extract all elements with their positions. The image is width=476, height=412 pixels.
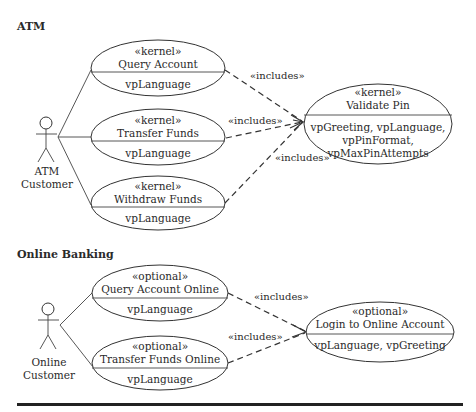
use-case-withdraw-funds[interactable]: «kernel» Withdraw Funds vpLanguage bbox=[91, 176, 225, 230]
use-case-name: Transfer Funds Online bbox=[100, 353, 220, 365]
stereotype: «kernel» bbox=[135, 114, 182, 126]
include-relation-query-account[interactable]: «includes» bbox=[225, 70, 305, 121]
actor-label-line1: ATM bbox=[34, 165, 60, 177]
variation-point: vpLanguage, vpGreeting bbox=[313, 339, 446, 351]
include-relation-query-account-online[interactable]: «includes» bbox=[228, 291, 309, 331]
stereotype: «kernel» bbox=[135, 180, 182, 192]
use-case-query-account-online[interactable]: «optional» Query Account Online vpLangua… bbox=[92, 265, 228, 321]
use-case-name: Validate Pin bbox=[345, 99, 410, 111]
open-arrowhead-icon bbox=[292, 325, 306, 337]
stereotype: «kernel» bbox=[355, 86, 402, 98]
relation-label: «includes» bbox=[254, 291, 309, 302]
section-title-online-banking: Online Banking bbox=[17, 248, 114, 261]
stick-figure-icon bbox=[36, 117, 57, 162]
variation-point: vpLanguage bbox=[124, 212, 190, 224]
variation-point: vpMaxPinAttempts bbox=[326, 147, 428, 159]
use-case-name: Withdraw Funds bbox=[114, 193, 202, 205]
variation-point: vpLanguage bbox=[126, 303, 192, 315]
stick-figure-icon bbox=[38, 303, 59, 349]
use-case-name: Query Account Online bbox=[101, 283, 219, 295]
relation-label: «includes» bbox=[250, 70, 305, 81]
stereotype: «optional» bbox=[132, 340, 188, 352]
use-case-login-online-account[interactable]: «optional» Login to Online Account vpLan… bbox=[306, 302, 454, 362]
use-case-query-account[interactable]: «kernel» Query Account vpLanguage bbox=[91, 40, 225, 96]
use-case-name: Transfer Funds bbox=[117, 127, 199, 139]
use-case-name: Query Account bbox=[118, 58, 198, 70]
section-title-atm: ATM bbox=[16, 20, 45, 33]
use-case-transfer-funds-online[interactable]: «optional» Transfer Funds Online vpLangu… bbox=[92, 336, 228, 390]
stereotype: «optional» bbox=[352, 305, 408, 317]
relation-label: «includes» bbox=[228, 331, 283, 342]
use-case-transfer-funds[interactable]: «kernel» Transfer Funds vpLanguage bbox=[91, 109, 225, 165]
bottom-divider bbox=[17, 403, 463, 406]
include-relation-transfer-funds-online[interactable]: «includes» bbox=[228, 331, 305, 363]
stereotype: «optional» bbox=[132, 270, 188, 282]
use-case-name: Login to Online Account bbox=[315, 318, 445, 330]
variation-point: vpLanguage bbox=[126, 373, 192, 385]
actor-online-customer[interactable]: Online Customer bbox=[23, 303, 76, 381]
use-case-diagram: ATM ATM Customer «kernel» Query Account … bbox=[0, 0, 476, 412]
actor-label-line2: Customer bbox=[21, 178, 74, 190]
relation-label: «includes» bbox=[228, 115, 283, 126]
variation-point: vpGreeting, vpLanguage, bbox=[310, 121, 446, 133]
relation-label: «includes» bbox=[275, 152, 330, 163]
actor-label-line2: Customer bbox=[23, 369, 76, 381]
variation-point: vpLanguage bbox=[124, 147, 190, 159]
variation-point: vpPinFormat, bbox=[341, 134, 414, 146]
stereotype: «kernel» bbox=[135, 45, 182, 57]
variation-point: vpLanguage bbox=[124, 78, 190, 90]
actor-label-line1: Online bbox=[31, 356, 66, 368]
